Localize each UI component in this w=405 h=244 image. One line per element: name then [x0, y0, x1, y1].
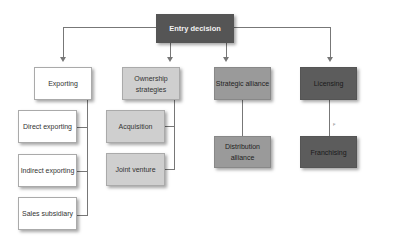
exporting-node: Exporting — [34, 67, 92, 100]
franchising-node: Franchising — [300, 136, 357, 168]
distribution-alliance-node: Distribution alliance — [214, 136, 271, 168]
arrow-licensing — [327, 57, 333, 62]
arrow-ownership — [167, 57, 173, 62]
connector-ownership-down — [170, 43, 171, 57]
bracket-tick — [77, 171, 87, 172]
bracket-ownership — [174, 100, 175, 170]
licensing-node: Licensing — [300, 67, 357, 100]
arrow-alliance — [223, 57, 229, 62]
joint-venture-node: Joint venture — [106, 153, 165, 186]
ownership-strategies-node: Ownership strategies — [122, 67, 180, 100]
bracket-tick — [165, 169, 174, 170]
small-mark: F — [333, 122, 335, 127]
connector-licensing-child — [329, 100, 330, 136]
acquisition-node: Acquisition — [106, 110, 165, 143]
direct-exporting-node: Direct exporting — [18, 110, 77, 143]
bracket-tick — [165, 126, 174, 127]
entry-decision-node: Entry decision — [156, 14, 234, 43]
bracket-exporting — [87, 100, 88, 216]
sales-subsidiary-node: Sales subsidiary — [18, 197, 77, 230]
connector-licensing-down — [330, 27, 331, 57]
connector-alliance-down — [226, 43, 227, 57]
arrow-exporting — [60, 57, 66, 62]
connector-exporting-down — [63, 27, 64, 57]
bracket-tick — [77, 215, 87, 216]
connector-root-left — [63, 27, 156, 28]
strategic-alliance-node: Strategic alliance — [214, 67, 271, 100]
connector-root-right — [234, 27, 330, 28]
indirect-exporting-node: Indirect exporting — [18, 154, 77, 187]
bracket-tick — [77, 127, 87, 128]
connector-alliance-child — [242, 100, 243, 136]
